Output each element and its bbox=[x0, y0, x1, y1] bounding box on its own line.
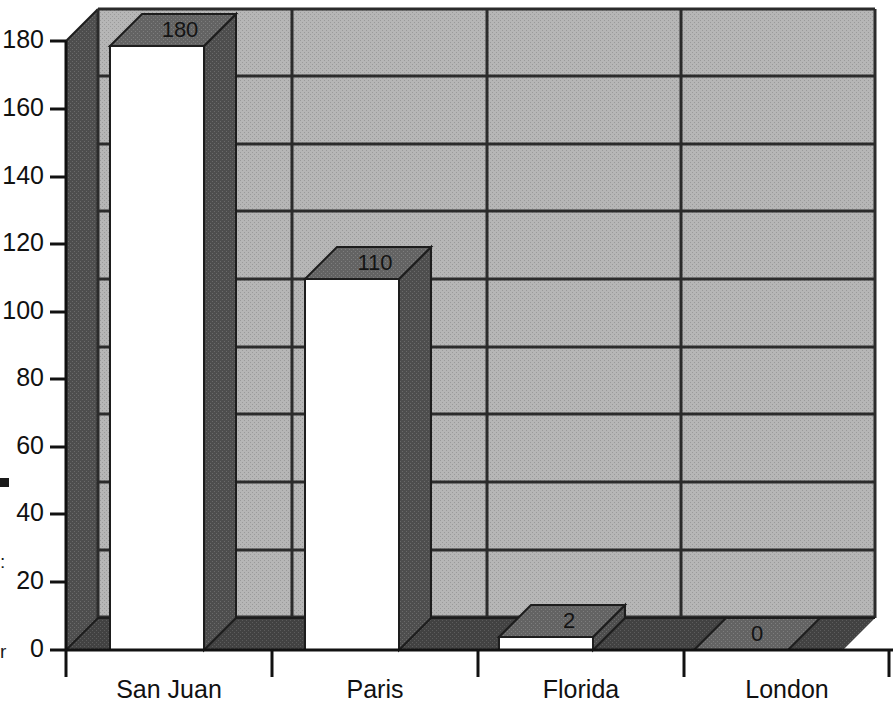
y-tick-label-20: 20 bbox=[16, 566, 44, 594]
y-axis: 180 160 140 120 100 80 60 40 20 0 bbox=[2, 25, 66, 662]
x-tick-label-paris: Paris bbox=[347, 675, 404, 701]
x-axis: San Juan Paris Florida London bbox=[66, 650, 893, 701]
x-tick-label-london: London bbox=[745, 675, 828, 701]
bar-value-label-san-juan: 180 bbox=[162, 17, 199, 42]
bar-paris[interactable]: 110 bbox=[305, 247, 431, 650]
bar-value-label-florida: 2 bbox=[563, 608, 575, 633]
y-tick-label-120: 120 bbox=[2, 228, 44, 256]
x-tick-label-florida: Florida bbox=[543, 675, 620, 701]
x-tick-label-san-juan: San Juan bbox=[116, 675, 222, 701]
y-tick-label-0: 0 bbox=[30, 634, 44, 662]
y-tick-label-40: 40 bbox=[16, 498, 44, 526]
y-tick-label-80: 80 bbox=[16, 363, 44, 391]
bar-san-juan[interactable]: 180 bbox=[110, 14, 236, 650]
plot-left-wall bbox=[66, 9, 98, 650]
bar-value-label-paris: 110 bbox=[357, 250, 392, 275]
y-tick-label-180: 180 bbox=[2, 25, 44, 53]
y-tick-label-140: 140 bbox=[2, 161, 44, 189]
y-tick-label-60: 60 bbox=[16, 431, 44, 459]
y-tick-label-100: 100 bbox=[2, 296, 44, 324]
bar-value-label-london: 0 bbox=[751, 621, 763, 646]
bar-chart-figure: : r e y n r . bbox=[0, 0, 893, 701]
bar-chart-canvas: 180 110 2 0 bbox=[0, 0, 893, 701]
y-tick-label-160: 160 bbox=[2, 93, 44, 121]
